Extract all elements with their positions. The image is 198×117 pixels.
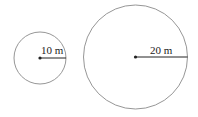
large-circle-radius-label: 20 m — [150, 44, 173, 56]
large-circle-center-dot — [134, 55, 137, 58]
small-circle-radius-label: 10 m — [41, 44, 64, 56]
large-circle-group: 20 m — [84, 5, 188, 109]
small-circle-group: 10 m — [14, 32, 66, 84]
circles-diagram: 10 m 20 m — [0, 0, 198, 117]
small-circle-center-dot — [38, 56, 41, 59]
